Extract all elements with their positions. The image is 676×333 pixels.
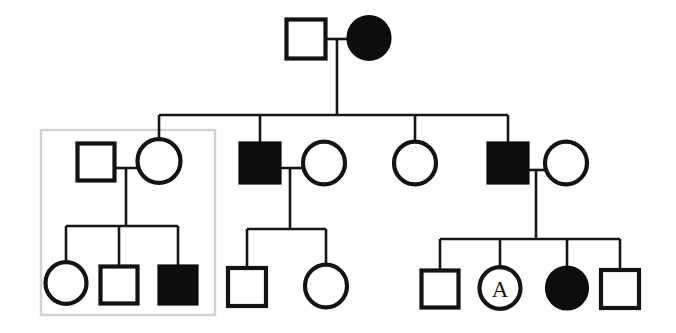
individual-label-III-7: A (492, 277, 509, 302)
square-symbol-icon[interactable] (240, 143, 280, 183)
individual-II-3-male-affected[interactable] (240, 143, 280, 183)
individual-II-1-male-unaffected[interactable] (78, 144, 115, 181)
individual-III-8-female-affected[interactable] (547, 267, 588, 309)
square-symbol-icon[interactable] (287, 20, 326, 59)
square-symbol-icon[interactable] (101, 267, 138, 304)
circle-symbol-icon[interactable] (305, 265, 347, 308)
individual-II-5-female-unaffected[interactable] (394, 142, 436, 185)
individual-II-7-female-unaffected[interactable] (545, 142, 587, 185)
square-symbol-icon[interactable] (422, 271, 459, 308)
generation-2 (78, 139, 588, 184)
square-symbol-icon[interactable] (488, 143, 528, 183)
individual-III-5-female-unaffected[interactable] (305, 265, 347, 308)
circle-symbol-icon[interactable] (547, 267, 588, 309)
individual-III-3-male-affected[interactable] (159, 266, 197, 304)
individual-II-2-female-unaffected[interactable] (138, 139, 181, 183)
generation-3: A (46, 262, 640, 309)
individual-III-9-male-unaffected[interactable] (601, 270, 639, 308)
square-symbol-icon[interactable] (78, 144, 115, 181)
square-symbol-icon[interactable] (159, 266, 197, 304)
individual-III-7-female-unaffected[interactable]: A (480, 267, 521, 309)
circle-symbol-icon[interactable] (46, 262, 87, 304)
individual-III-1-female-unaffected[interactable] (46, 262, 87, 304)
circle-symbol-icon[interactable] (348, 17, 390, 60)
individual-I-1-male-unaffected[interactable] (287, 20, 326, 59)
pedigree-chart: A (0, 0, 676, 333)
individual-I-2-female-affected[interactable] (348, 17, 390, 60)
circle-symbol-icon[interactable] (138, 139, 181, 183)
individual-symbols-layer: A (46, 17, 640, 309)
square-symbol-icon[interactable] (601, 270, 639, 308)
individual-III-2-male-unaffected[interactable] (101, 267, 138, 304)
square-symbol-icon[interactable] (228, 268, 266, 306)
circle-symbol-icon[interactable] (394, 142, 436, 185)
individual-III-4-male-unaffected[interactable] (228, 268, 266, 306)
pedigree-canvas: A (0, 0, 676, 333)
circle-symbol-icon[interactable] (303, 142, 345, 185)
individual-II-4-female-unaffected[interactable] (303, 142, 345, 185)
individual-II-6-male-affected[interactable] (488, 143, 528, 183)
circle-symbol-icon[interactable] (545, 142, 587, 185)
individual-III-6-male-unaffected[interactable] (422, 271, 459, 308)
